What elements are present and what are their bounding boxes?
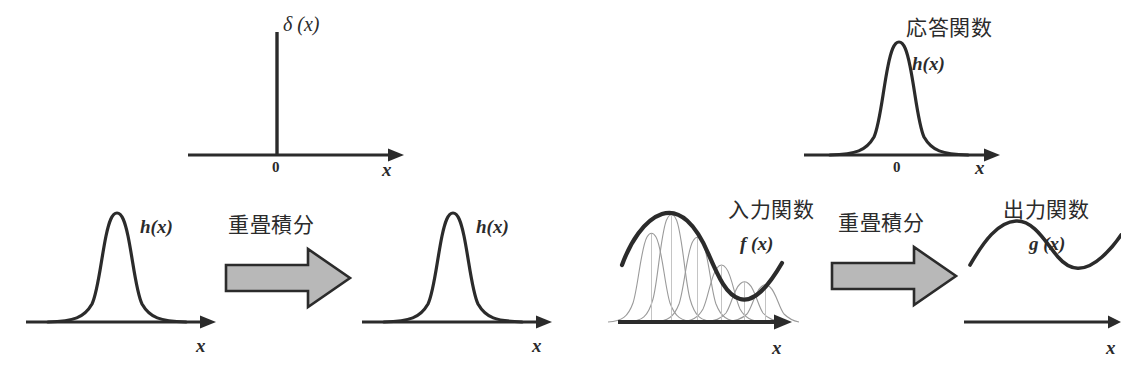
impulse-response-output-plot bbox=[358, 200, 558, 340]
arrow-right-icon bbox=[832, 247, 956, 305]
x-axis-arrowhead bbox=[774, 315, 792, 330]
panel-impulse-response-output-spacer bbox=[155, 200, 355, 340]
output-function-x-label: x bbox=[1106, 338, 1116, 357]
output-function-curve-label: g (x) bbox=[1029, 234, 1065, 253]
gaussian-curve-h bbox=[830, 42, 968, 155]
response-function-origin-label: 0 bbox=[893, 160, 901, 175]
delta-function-label: δ (x) bbox=[283, 14, 320, 34]
response-function-curve-label: h(x) bbox=[912, 54, 945, 73]
panel-impulse-response-output bbox=[358, 200, 558, 340]
gaussian-component-group bbox=[608, 215, 799, 323]
convolution-arrow-right bbox=[830, 243, 958, 313]
block-arrow-icon bbox=[830, 243, 958, 313]
input-function-curve-label: f (x) bbox=[740, 234, 773, 253]
response-function-x-label: x bbox=[975, 158, 985, 177]
x-axis-arrowhead bbox=[1108, 316, 1121, 329]
input-envelope-curve-f bbox=[622, 213, 782, 300]
output-function-title: 出力関数 bbox=[1003, 200, 1089, 221]
response-function-title: 応答関数 bbox=[906, 18, 992, 39]
convolution-arrow-label-right: 重畳積分 bbox=[838, 213, 924, 234]
input-function-title: 入力関数 bbox=[728, 200, 814, 221]
x-axis-arrowhead bbox=[536, 316, 552, 329]
impulse-response-output-label: h(x) bbox=[476, 217, 509, 236]
delta-origin-label: 0 bbox=[272, 160, 280, 175]
input-function-x-label: x bbox=[772, 338, 782, 357]
sample-stem-group bbox=[652, 216, 766, 322]
convolution-figure: δ (x) 0 x h(x) x 重畳積分 h(x) x 応答関数 bbox=[0, 0, 1121, 369]
impulse-response-output-x-label: x bbox=[532, 336, 542, 355]
x-axis-arrowhead bbox=[984, 149, 1000, 162]
delta-x-axis-label: x bbox=[382, 160, 392, 179]
